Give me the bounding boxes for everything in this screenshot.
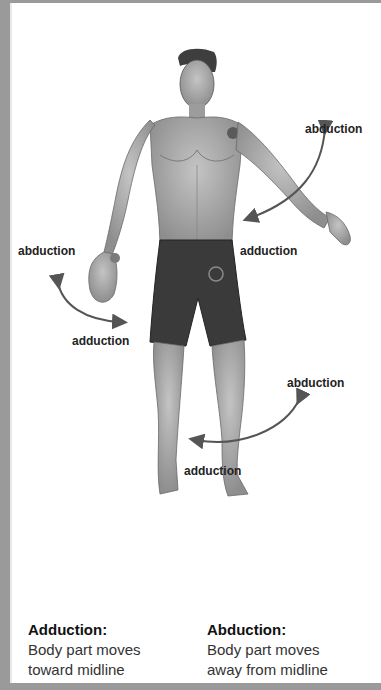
hip-abduction-label: abduction	[287, 376, 344, 390]
hip-adduction-label: adduction	[184, 464, 241, 478]
wrist-joint-marker	[110, 253, 120, 263]
legend-abduction-line1: Body part moves	[207, 640, 328, 660]
wrist-abduction-label: abduction	[18, 244, 75, 258]
legend-abduction-title: Abduction:	[207, 620, 328, 640]
shoulder-abduction-label: abduction	[305, 122, 362, 136]
hip-movement-arrow	[196, 398, 300, 442]
shorts	[150, 240, 246, 346]
legend-adduction-line2: toward midline	[28, 660, 141, 680]
torso	[150, 117, 243, 250]
head	[178, 49, 217, 120]
legend-abduction: Abduction: Body part moves away from mid…	[207, 620, 328, 680]
legend-adduction-title: Adduction:	[28, 620, 141, 640]
legend-adduction: Adduction: Body part moves toward midlin…	[28, 620, 141, 680]
human-figure-illustration	[0, 0, 381, 690]
right-arm	[236, 122, 350, 245]
wrist-adduction-label: adduction	[72, 334, 129, 348]
left-arm	[89, 120, 155, 302]
legend-adduction-line1: Body part moves	[28, 640, 141, 660]
shoulder-adduction-label: adduction	[240, 244, 297, 258]
legend-abduction-line2: away from midline	[207, 660, 328, 680]
